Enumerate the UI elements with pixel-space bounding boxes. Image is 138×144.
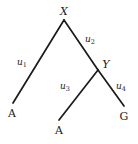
branch-label-u2-subscript: 2 (91, 38, 95, 46)
branch-label-u3-subscript: 3 (66, 85, 70, 93)
branch-label-u4: u4 (116, 82, 126, 92)
branch-label-u3: u3 (60, 82, 70, 92)
branch-label-u1: u1 (17, 58, 27, 68)
phylogenetic-tree-figure: X Y u1 u2 u3 u4 A A G (0, 0, 138, 144)
leaf-label-middle: A (55, 125, 63, 136)
branch-label-u1-subscript: 1 (23, 61, 27, 69)
branch-line-u3 (59, 70, 98, 120)
leaf-label-left: A (8, 108, 16, 119)
node-label-internal: Y (102, 59, 109, 70)
leaf-label-right: G (120, 111, 129, 122)
branch-label-u4-subscript: 4 (122, 85, 126, 93)
branch-label-u2: u2 (85, 35, 95, 45)
node-label-root: X (60, 6, 68, 17)
tree-branches-svg (0, 0, 138, 144)
